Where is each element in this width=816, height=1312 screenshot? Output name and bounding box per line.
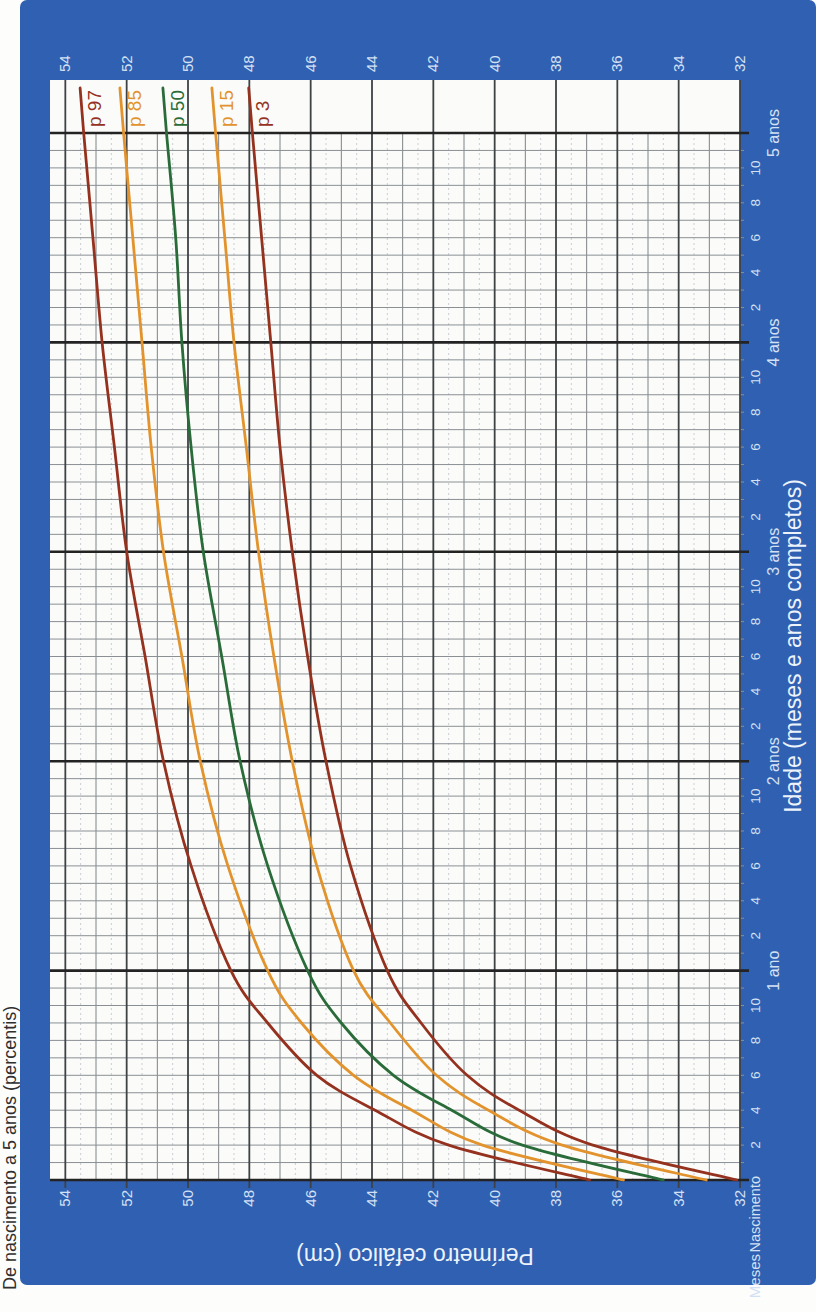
y-tick-label-right: 48 [240,55,257,72]
x-year-label: 5 anos [765,109,782,157]
x-axis-title: Idade (meses e anos completos) [780,479,806,813]
y-tick-label-right: 40 [486,55,503,72]
x-month-label: 10 [748,579,763,594]
x-month-label: 2 [748,304,763,312]
x-month-label: 2 [748,1141,763,1149]
y-tick-label-right: 42 [424,55,441,72]
x-month-label: 6 [748,653,763,661]
y-tick-label-right: 36 [608,55,625,72]
y-tick-label-left: 36 [608,1190,625,1207]
percentile-label-p3: p 3 [252,101,273,127]
x-month-label: 2 [748,932,763,940]
y-tick-label-left: 46 [302,1190,319,1207]
y-tick-label-left: 52 [118,1190,135,1207]
y-tick-label-left: 38 [547,1190,564,1207]
y-tick-label-right: 34 [670,55,687,72]
y-tick-label-left: 42 [424,1190,441,1207]
rotated-landscape-chart: De nascimento a 5 anos (percentis) 54545… [0,0,816,1312]
y-tick-label-left: 54 [56,1190,73,1207]
y-tick-label-left: 50 [179,1190,196,1207]
y-tick-label-right: 50 [179,55,196,72]
y-tick-label-right: 46 [302,55,319,72]
growth-chart-svg: 5454525250504848464644444242404038383636… [0,0,816,1312]
x-month-label: 6 [748,1072,763,1080]
x-year-label: 1 ano [765,950,782,990]
y-tick-label-left: 44 [363,1190,380,1207]
x-month-label: 8 [748,199,763,207]
x-month-label: 10 [748,160,763,175]
chart-title: De nascimento a 5 anos (percentis) [1,1006,20,1290]
birth-label: Nascimento [747,1176,763,1253]
x-month-label: 10 [748,370,763,385]
months-unit-label: Meses [746,1254,763,1298]
x-month-label: 4 [748,478,763,486]
y-tick-label-right: 38 [547,55,564,72]
percentile-label-p97: p 97 [84,90,105,127]
y-axis-title: Perímetro cefálico (cm) [296,1243,534,1269]
percentile-label-p50: p 50 [167,90,188,127]
x-month-label: 6 [748,862,763,870]
x-month-label: 10 [748,998,763,1013]
y-tick-label-right: 44 [363,55,380,72]
y-tick-label-right: 54 [56,55,73,72]
x-month-label: 6 [748,443,763,451]
x-month-label: 2 [748,723,763,731]
x-month-label: 2 [748,513,763,521]
y-tick-label-left: 40 [486,1190,503,1207]
x-month-label: 8 [748,827,763,835]
x-month-label: 10 [748,789,763,804]
x-month-label: 8 [748,618,763,626]
x-month-label: 6 [748,234,763,242]
x-month-label: 8 [748,408,763,416]
x-month-label: 8 [748,1037,763,1045]
x-month-label: 4 [748,687,763,695]
y-tick-label-right: 32 [731,55,748,72]
x-month-label: 4 [748,1106,763,1114]
scanned-growth-chart-page: De nascimento a 5 anos (percentis) 54545… [0,0,816,1312]
x-year-label: 4 anos [765,318,782,366]
x-month-label: 4 [748,897,763,905]
percentile-label-p85: p 85 [124,90,145,127]
y-tick-label-left: 48 [240,1190,257,1207]
percentile-label-p15: p 15 [216,90,237,127]
y-tick-label-right: 52 [118,55,135,72]
plot-area [50,80,740,1180]
y-tick-label-left: 32 [731,1190,748,1207]
y-tick-label-left: 34 [670,1190,687,1207]
x-month-label: 4 [748,268,763,276]
